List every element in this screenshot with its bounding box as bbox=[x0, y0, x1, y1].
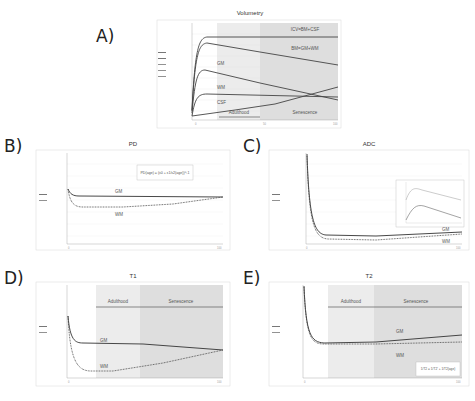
senescence-region bbox=[260, 23, 338, 120]
gm-label-t2: GM bbox=[396, 329, 404, 334]
chart-title-adc: ADC bbox=[363, 141, 376, 147]
svg-text:100: 100 bbox=[333, 122, 338, 126]
gm-label-a: GM bbox=[217, 61, 225, 66]
t2-formula: 1/T2 = 1/T2' + 1/T2(age) bbox=[421, 367, 455, 371]
chart-title-volumetry: Volumetry bbox=[237, 10, 264, 16]
gm-label-t1: GM bbox=[100, 338, 108, 343]
wm-label-pd: WM bbox=[115, 212, 123, 217]
wm-label-adc: WM bbox=[442, 239, 450, 244]
panel-label-d: D) bbox=[4, 268, 24, 288]
senescence-label-a: Senescence bbox=[293, 110, 318, 115]
bm-label: BM=GM+WM bbox=[291, 46, 319, 51]
chart-title-pd: PD bbox=[129, 141, 138, 147]
adulthood-label-a: Adulthood bbox=[229, 110, 250, 115]
adulthood-region bbox=[217, 23, 260, 120]
svg-text:100: 100 bbox=[217, 246, 222, 250]
panel-label-c: C) bbox=[243, 136, 262, 156]
adulthood-label-t1: Adulthood bbox=[108, 299, 129, 304]
chart-t1: T1 Adulthood Senescence GM WM 0100 bbox=[33, 270, 233, 390]
chart-adc: ADC GM WM 0100 bbox=[266, 138, 472, 253]
senescence-label-t2: Senescence bbox=[404, 299, 429, 304]
gm-label-adc: GM bbox=[442, 227, 450, 232]
csf-label-a: CSF bbox=[217, 100, 226, 105]
chart-t2: T2 Adulthood Senescence GM WM 1/T2 = 1/T… bbox=[266, 270, 472, 390]
chart-title-t1: T1 bbox=[129, 273, 137, 279]
panel-label-e: E) bbox=[243, 268, 260, 288]
pd-formula: PD(age) = (ε0 + ε1/ε2(age))^-1 bbox=[140, 171, 189, 175]
icv-label: ICV=BM+CSF bbox=[291, 27, 320, 32]
chart-title-t2: T2 bbox=[365, 273, 373, 279]
panel-label-b: B) bbox=[4, 136, 22, 156]
wm-label-t1: WM bbox=[100, 364, 108, 369]
gm-label-pd: GM bbox=[115, 189, 123, 194]
senescence-label-t1: Senescence bbox=[169, 299, 194, 304]
svg-text:100: 100 bbox=[456, 380, 461, 384]
chart-volumetry: Volumetry ICV=BM+CSF BM=GM+WM bbox=[155, 8, 345, 130]
panel-label-a: A) bbox=[96, 26, 114, 46]
adulthood-label-t2: Adulthood bbox=[341, 299, 362, 304]
svg-text:100: 100 bbox=[456, 246, 461, 250]
chart-pd: PD PD(age) = (ε0 + ε1/ε2(age))^-1 GM WM … bbox=[33, 138, 233, 253]
wm-label-t2: WM bbox=[396, 353, 404, 358]
svg-text:100: 100 bbox=[217, 380, 222, 384]
wm-label-a: WM bbox=[217, 85, 225, 90]
adc-inset-chart bbox=[396, 180, 464, 227]
